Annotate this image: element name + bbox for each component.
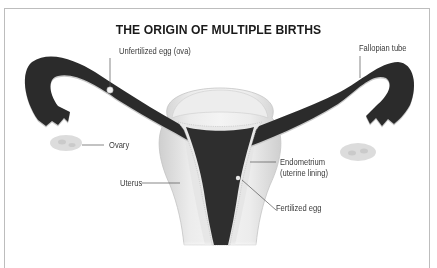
label-endometrium-line1: Endometrium xyxy=(280,157,328,168)
ovary-right xyxy=(340,143,376,161)
label-endometrium-line2: (uterine lining) xyxy=(280,168,328,179)
fertilized-egg xyxy=(236,176,240,180)
label-ovary: Ovary xyxy=(109,140,129,151)
label-endometrium: Endometrium (uterine lining) xyxy=(280,157,328,178)
unfertilized-egg xyxy=(107,87,113,93)
label-fertilized-egg: Fertilized egg xyxy=(276,203,321,214)
label-unfertilized-egg: Unfertilized egg (ova) xyxy=(119,46,191,57)
ovary-left xyxy=(50,135,82,151)
label-uterus: Uterus xyxy=(120,178,142,189)
label-fallopian-tube: Fallopian tube xyxy=(359,43,407,54)
